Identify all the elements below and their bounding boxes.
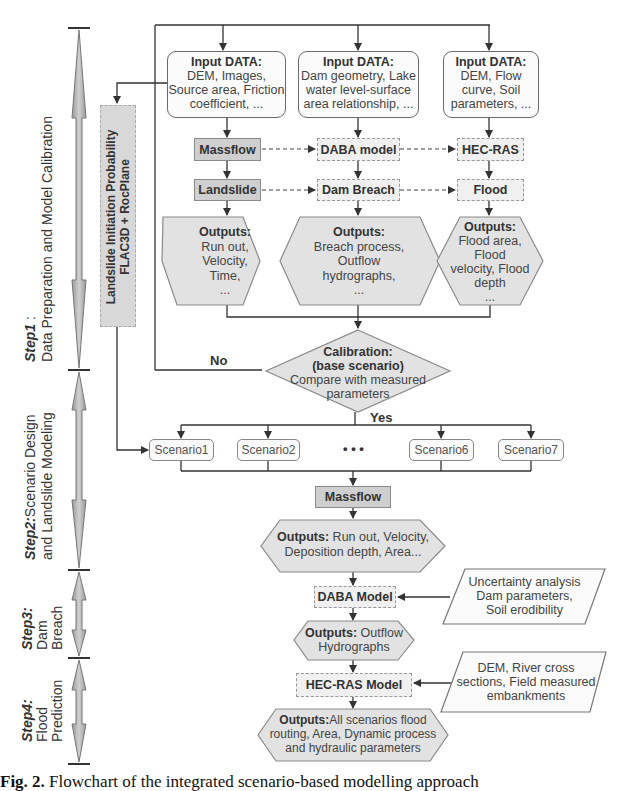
- scenario-6: Scenario6: [409, 439, 474, 461]
- no-branch-label: No: [210, 353, 227, 368]
- calibration-text: Calibration: (base scenario) Compare wit…: [283, 345, 433, 401]
- yes-branch-label: Yes: [370, 410, 392, 425]
- step-arrows: [68, 28, 90, 764]
- figure-caption: Fig. 2. Flowchart of the integrated scen…: [0, 772, 479, 791]
- model-massflow: Massflow: [194, 138, 261, 161]
- output-flood-text: Outputs: Flood area, Flood velocity, Flo…: [440, 220, 540, 304]
- process-flood: Flood: [457, 179, 524, 201]
- process-landslide: Landslide: [194, 179, 261, 201]
- step3-input-text: Uncertainty analysis Dam parameters, Soi…: [452, 575, 597, 617]
- step3-daba-model: DABA Model: [314, 586, 396, 608]
- step1-label: Step1 : Data Preparation and Model Calib…: [22, 116, 56, 362]
- step4-input-text: DEM, River cross sections, Field measure…: [452, 661, 600, 703]
- step4-output-text: Outputs:All scenarios flood routing, Are…: [262, 713, 444, 755]
- input-data-dam: Input DATA: Dam geometry, Lake water lev…: [298, 51, 419, 118]
- landslide-initiation-box: Landslide Initiation Probability FLAC3D …: [100, 105, 136, 327]
- input-data-flood: Input DATA: DEM, Flow curve, Soil parame…: [443, 51, 539, 118]
- scenario-ellipsis: • • •: [343, 441, 364, 456]
- step2-output-text: Outputs: Run out, Velocity, Deposition d…: [268, 530, 438, 559]
- model-daba: DABA model: [317, 138, 400, 161]
- step2-massflow: Massflow: [315, 486, 391, 508]
- step4-label: Step4: Flood Prediction: [20, 680, 65, 742]
- scenario-2: Scenario2: [237, 439, 300, 461]
- scenario-7: Scenario7: [498, 439, 564, 461]
- output-landslide-text: Outputs: Run out, Velocity, Time, ...: [175, 225, 275, 298]
- model-hec-ras: HEC-RAS: [457, 138, 524, 161]
- output-dam-breach-text: Outputs: Breach process, Outflow hydrogr…: [298, 225, 420, 298]
- step4-hec-ras-model: HEC-RAS Model: [296, 673, 412, 697]
- input-data-landslide: Input DATA: DEM, Images, Source area, Fr…: [167, 51, 286, 118]
- step3-output-text: Outputs: Outflow Hydrographs: [298, 626, 410, 654]
- process-dam-breach: Dam Breach: [317, 179, 400, 201]
- step3-label: Step3: Dam Breach: [20, 606, 65, 650]
- scenario-1: Scenario1: [149, 439, 214, 461]
- step2-label: Step2:Scenario Design and Landslide Mode…: [22, 412, 56, 560]
